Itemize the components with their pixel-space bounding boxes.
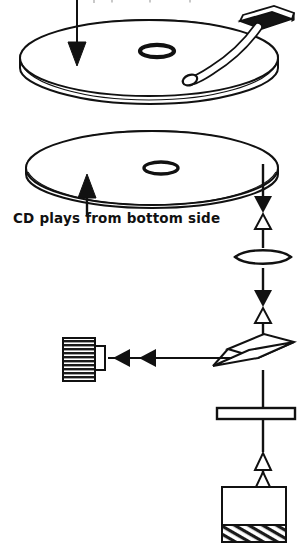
- spindle-hole: [140, 45, 174, 57]
- photodetector-body: [63, 338, 95, 381]
- beam-splitter-prism: [213, 334, 294, 366]
- filled-triangle-left: [113, 349, 130, 367]
- laser-diode-base: [222, 525, 286, 542]
- beam-marker-pair-upper: [254, 196, 272, 229]
- caption-cd-plays-from-bottom: CD plays from bottom side: [13, 210, 220, 226]
- collimator-lens-plate: [217, 408, 295, 419]
- laser-diode: [222, 487, 286, 542]
- filled-triangle-left: [139, 349, 156, 367]
- hollow-triangle-up: [255, 453, 271, 470]
- filled-triangle-down: [254, 196, 272, 213]
- filled-triangle-down: [254, 290, 272, 307]
- objective-lens: [235, 250, 291, 264]
- cd-center-hole: [144, 162, 178, 174]
- beam-marker-pair-lower: [254, 290, 272, 323]
- hollow-triangle-up: [255, 308, 271, 323]
- photodetector: [63, 338, 105, 381]
- compact-disc: [26, 131, 278, 208]
- top-caption-fragments: [94, 0, 190, 3]
- diagram-canvas: CD plays from bottom side: [0, 0, 297, 543]
- phonograph-record: [20, 20, 278, 104]
- laser-beam-markers: [255, 453, 271, 489]
- cd-pickup-diagram: [0, 0, 297, 543]
- laser-diode-body: [222, 487, 286, 525]
- hollow-triangle-up: [255, 214, 271, 229]
